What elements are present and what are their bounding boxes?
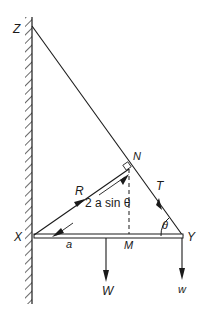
label-distance: 2 a sin θ bbox=[85, 196, 131, 210]
wall bbox=[25, 17, 32, 304]
label-theta: θ bbox=[162, 219, 168, 231]
label-N: N bbox=[133, 150, 141, 162]
label-R: R bbox=[75, 184, 84, 198]
force-W bbox=[103, 238, 109, 282]
label-Y: Y bbox=[187, 230, 196, 244]
label-X: X bbox=[13, 230, 23, 244]
label-M: M bbox=[124, 239, 134, 251]
label-T: T bbox=[156, 179, 165, 193]
statics-diagram: Z N X Y M a R T W w θ 2 a sin θ bbox=[0, 0, 207, 313]
label-W: W bbox=[102, 284, 115, 298]
label-Z: Z bbox=[12, 22, 21, 36]
force-w bbox=[179, 238, 185, 280]
label-w: w bbox=[178, 283, 187, 295]
label-a: a bbox=[66, 238, 72, 250]
